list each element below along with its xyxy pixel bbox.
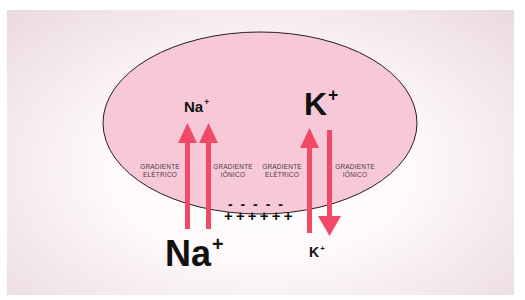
inside-na-label: Na+	[184, 99, 209, 114]
na-charge: +	[212, 233, 224, 255]
gradient-label-k-ionic: GRADIENTE IÔNICO	[332, 163, 378, 179]
outside-na-label: Na+	[165, 236, 224, 272]
na-symbol: Na	[184, 98, 203, 115]
k-charge: +	[328, 85, 338, 105]
inside-k-label: K+	[304, 88, 338, 120]
gradient-line1: GRADIENTE	[135, 163, 185, 171]
gradient-label-na-electric: GRADIENTE ELÉTRICO	[135, 163, 185, 179]
k-symbol: K	[309, 244, 319, 260]
diagram-canvas	[0, 0, 525, 300]
gradient-line2: IÔNICO	[332, 171, 378, 179]
gradient-line2: IÔNICO	[210, 171, 256, 179]
cell-membrane	[103, 32, 417, 214]
gradient-line2: ELÉTRICO	[258, 171, 306, 179]
na-symbol: Na	[165, 233, 211, 274]
k-charge: +	[320, 244, 325, 253]
gradient-label-na-ionic: GRADIENTE IÔNICO	[210, 163, 256, 179]
outside-k-label: K+	[309, 245, 325, 259]
gradient-label-k-electric: GRADIENTE ELÉTRICO	[258, 163, 306, 179]
na-charge: +	[204, 98, 209, 107]
k-symbol: K	[304, 86, 327, 122]
gradient-line1: GRADIENTE	[258, 163, 306, 171]
gradient-line1: GRADIENTE	[332, 163, 378, 171]
gradient-line1: GRADIENTE	[210, 163, 256, 171]
membrane-positive-charges: + + + + + +	[224, 207, 292, 224]
gradient-line2: ELÉTRICO	[135, 171, 185, 179]
